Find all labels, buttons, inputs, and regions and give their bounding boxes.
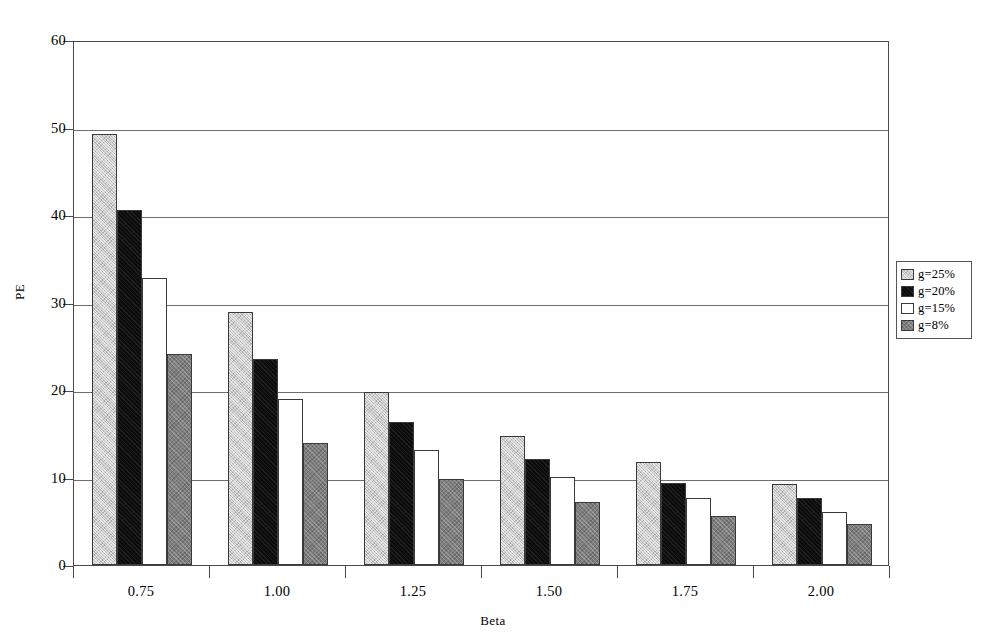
bar-g25-0.75: [92, 134, 117, 565]
bar-g8-1.75: [711, 516, 736, 565]
bar-g8-0.75: [167, 354, 192, 565]
legend-item: g=15%: [901, 300, 967, 317]
bar-g8-1.25: [439, 479, 464, 565]
bar-g8-2.00: [847, 524, 872, 565]
y-axis-tick-label: 0: [6, 558, 66, 573]
bar-g25-1.00: [228, 312, 253, 565]
legend-label: g=25%: [918, 267, 955, 282]
legend-swatch-icon: [901, 320, 914, 331]
bar-g20-1.50: [525, 459, 550, 565]
gridline: [74, 305, 888, 306]
x-axis-tick-label: 1.75: [625, 583, 745, 600]
bar-g20-1.75: [661, 483, 686, 565]
legend-label: g=20%: [918, 284, 955, 299]
bar-g20-1.00: [253, 359, 278, 565]
bar-g15-1.75: [686, 498, 711, 565]
legend-item: g=8%: [901, 317, 967, 334]
bar-g15-1.50: [550, 477, 575, 565]
x-axis-tick: [753, 566, 754, 578]
y-axis-tick-label: 30: [6, 296, 66, 311]
gridline: [74, 217, 888, 218]
x-axis-tick-label: 0.75: [81, 583, 201, 600]
x-axis-title: Beta: [0, 613, 986, 629]
bar-g15-1.00: [278, 399, 303, 565]
x-axis-tick: [73, 566, 74, 578]
legend-label: g=8%: [918, 318, 949, 333]
bar-g20-1.25: [389, 422, 414, 565]
bar-g25-1.25: [364, 392, 389, 565]
legend-item: g=20%: [901, 283, 967, 300]
x-axis-tick: [345, 566, 346, 578]
bar-g15-0.75: [142, 278, 167, 565]
legend-label: g=15%: [918, 301, 955, 316]
legend-swatch-icon: [901, 303, 914, 314]
legend: g=25%g=20%g=15%g=8%: [896, 261, 972, 339]
plot-area: [73, 41, 889, 566]
y-axis-tick-label: 50: [6, 121, 66, 136]
gridline: [74, 130, 888, 131]
x-axis-tick: [209, 566, 210, 578]
x-axis-tick-label: 1.00: [217, 583, 337, 600]
bar-g8-1.50: [575, 502, 600, 565]
y-axis-tick-label: 10: [6, 471, 66, 486]
bar-g15-2.00: [822, 512, 847, 565]
gridline: [74, 392, 888, 393]
legend-item: g=25%: [901, 266, 967, 283]
bar-g20-0.75: [117, 210, 142, 565]
bar-chart: PE 0102030405060 0.751.001.251.501.752.0…: [0, 0, 986, 638]
y-axis-tick-label: 20: [6, 383, 66, 398]
bar-g20-2.00: [797, 498, 822, 565]
legend-swatch-icon: [901, 286, 914, 297]
x-axis-tick-label: 1.25: [353, 583, 473, 600]
bar-g8-1.00: [303, 443, 328, 566]
x-axis-tick: [617, 566, 618, 578]
x-axis-tick-label: 1.50: [489, 583, 609, 600]
bar-g15-1.25: [414, 450, 439, 566]
bar-g25-1.50: [500, 436, 525, 565]
legend-swatch-icon: [901, 269, 914, 280]
bar-g25-1.75: [636, 462, 661, 565]
bar-g25-2.00: [772, 484, 797, 565]
x-axis-tick: [889, 566, 890, 578]
y-axis-tick-label: 60: [6, 33, 66, 48]
x-axis-tick: [481, 566, 482, 578]
x-axis-tick-label: 2.00: [761, 583, 881, 600]
gridline: [74, 480, 888, 481]
y-axis-tick-label: 40: [6, 208, 66, 223]
